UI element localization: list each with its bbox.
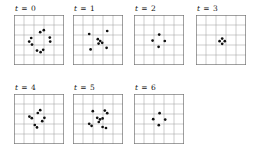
label-variable: t bbox=[74, 4, 77, 13]
particle-dot bbox=[157, 123, 160, 126]
particle-dot bbox=[33, 123, 36, 126]
particle-dot bbox=[157, 45, 160, 48]
particle-layer-t3 bbox=[196, 15, 246, 65]
label-variable: t bbox=[135, 83, 138, 92]
panel-t1: t = 1 bbox=[73, 4, 129, 65]
particle-dot bbox=[28, 40, 31, 43]
label-value: 0 bbox=[31, 4, 36, 13]
particle-dot bbox=[99, 39, 102, 42]
panel-label-t1: t = 1 bbox=[73, 4, 129, 13]
grid-t0 bbox=[14, 15, 64, 65]
particle-dot bbox=[218, 39, 221, 42]
grid-t5 bbox=[73, 94, 123, 144]
particle-dot bbox=[106, 29, 109, 32]
particle-dot bbox=[48, 36, 51, 39]
particle-dot bbox=[97, 42, 100, 45]
particle-dot bbox=[39, 30, 42, 33]
particle-dot bbox=[30, 36, 33, 39]
particle-layer-t6 bbox=[134, 94, 184, 144]
label-operator: = bbox=[80, 4, 87, 13]
particle-dot bbox=[31, 43, 34, 46]
label-value: 4 bbox=[31, 83, 36, 92]
particle-dot bbox=[96, 37, 99, 40]
particle-dot bbox=[105, 126, 108, 129]
particle-dot bbox=[88, 32, 91, 35]
particle-dot bbox=[49, 40, 52, 43]
panel-t5: t = 5 bbox=[73, 83, 129, 144]
particle-layer-t0 bbox=[14, 15, 64, 65]
particle-dot bbox=[89, 48, 92, 51]
panel-label-t6: t = 6 bbox=[134, 83, 190, 92]
figure-root: t = 0t = 1t = 2t = 3t = 4t = 5t = 6 bbox=[0, 0, 262, 154]
particle-dot bbox=[41, 119, 44, 122]
label-operator: = bbox=[80, 83, 87, 92]
label-operator: = bbox=[21, 4, 28, 13]
panel-label-t0: t = 0 bbox=[14, 4, 70, 13]
particle-dot bbox=[91, 109, 94, 112]
panel-t0: t = 0 bbox=[14, 4, 70, 65]
particle-dot bbox=[151, 39, 154, 42]
particle-dot bbox=[36, 126, 39, 129]
particle-layer-t4 bbox=[14, 94, 64, 144]
particle-dot bbox=[103, 109, 106, 112]
panel-label-t2: t = 2 bbox=[134, 4, 190, 13]
grid-t6 bbox=[134, 94, 184, 144]
grid-t4 bbox=[14, 94, 64, 144]
particle-dot bbox=[97, 120, 100, 123]
label-operator: = bbox=[141, 83, 148, 92]
particle-dot bbox=[164, 118, 167, 121]
label-operator: = bbox=[203, 4, 210, 13]
particle-dot bbox=[158, 111, 161, 114]
label-value: 3 bbox=[213, 4, 218, 13]
particle-dot bbox=[28, 115, 31, 118]
label-value: 1 bbox=[90, 4, 95, 13]
particle-dot bbox=[152, 117, 155, 120]
particle-dot bbox=[105, 46, 108, 49]
panel-label-t3: t = 3 bbox=[196, 4, 252, 13]
label-variable: t bbox=[74, 83, 77, 92]
particle-dot bbox=[101, 41, 104, 44]
particle-dot bbox=[96, 116, 99, 119]
particle-dot bbox=[221, 37, 224, 40]
particle-dot bbox=[106, 111, 109, 114]
panel-label-t5: t = 5 bbox=[73, 83, 129, 92]
particle-dot bbox=[101, 125, 104, 128]
panel-t2: t = 2 bbox=[134, 4, 190, 65]
panel-label-t4: t = 4 bbox=[14, 83, 70, 92]
particle-dot bbox=[30, 116, 33, 119]
label-value: 5 bbox=[90, 83, 95, 92]
particle-dot bbox=[90, 124, 93, 127]
particle-dot bbox=[42, 28, 45, 31]
particle-dot bbox=[158, 33, 161, 36]
particle-layer-t5 bbox=[73, 94, 123, 144]
label-value: 2 bbox=[151, 4, 156, 13]
panel-t6: t = 6 bbox=[134, 83, 190, 144]
particle-dot bbox=[39, 50, 42, 53]
particle-dot bbox=[99, 118, 102, 121]
grid-t1 bbox=[73, 15, 123, 65]
label-operator: = bbox=[141, 4, 148, 13]
particle-layer-t1 bbox=[73, 15, 123, 65]
particle-layer-t2 bbox=[134, 15, 184, 65]
particle-dot bbox=[101, 117, 104, 120]
panel-t4: t = 4 bbox=[14, 83, 70, 144]
particle-dot bbox=[43, 116, 46, 119]
label-variable: t bbox=[15, 4, 18, 13]
particle-dot bbox=[36, 49, 39, 52]
particle-dot bbox=[221, 42, 224, 45]
label-value: 6 bbox=[151, 83, 156, 92]
label-variable: t bbox=[15, 83, 18, 92]
label-variable: t bbox=[197, 4, 200, 13]
panel-t3: t = 3 bbox=[196, 4, 252, 65]
label-operator: = bbox=[21, 83, 28, 92]
label-variable: t bbox=[135, 4, 138, 13]
grid-t3 bbox=[196, 15, 246, 65]
grid-t2 bbox=[134, 15, 184, 65]
particle-dot bbox=[163, 39, 166, 42]
particle-dot bbox=[42, 48, 45, 51]
particle-dot bbox=[88, 122, 91, 125]
particle-dot bbox=[36, 111, 39, 114]
particle-dot bbox=[39, 108, 42, 111]
particle-dot bbox=[223, 39, 226, 42]
